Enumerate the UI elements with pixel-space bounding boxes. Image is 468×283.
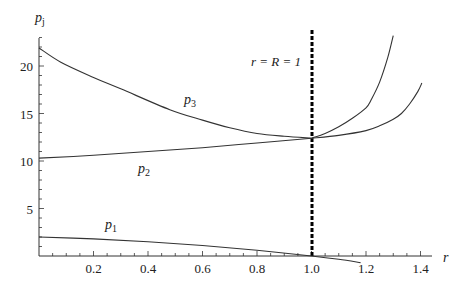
x-tick-label: 0.6 — [194, 261, 211, 276]
x-tick-label: 1.2 — [358, 261, 374, 276]
x-tick-label: 0.8 — [249, 261, 265, 276]
y-tick-label: 5 — [27, 202, 34, 217]
y-tick-label: 10 — [20, 154, 33, 169]
curve-1 — [39, 138, 312, 158]
annotation-r-equals-R: r = R = 1 — [251, 54, 301, 69]
curve-label-p1: p1 — [104, 217, 117, 234]
curve-label-p2: p2 — [137, 161, 150, 178]
curve-2 — [312, 36, 394, 139]
curves — [39, 36, 422, 263]
x-tick-label: 1.0 — [303, 261, 319, 276]
chart-plot: 0.20.40.60.81.01.21.4 5101520 pj r r = R… — [0, 0, 468, 283]
y-ticks: 5101520 — [20, 38, 44, 247]
y-tick-label: 15 — [20, 107, 33, 122]
curve-label-p3: p3 — [183, 92, 196, 109]
x-tick-label: 1.4 — [412, 261, 429, 276]
axes: 0.20.40.60.81.01.21.4 5101520 — [20, 38, 432, 277]
x-axis-label: r — [443, 250, 449, 265]
y-axis-label: pj — [34, 10, 45, 27]
curve-3 — [312, 83, 422, 138]
x-tick-label: 0.2 — [85, 261, 101, 276]
x-ticks: 0.20.40.60.81.01.21.4 — [53, 251, 430, 276]
y-tick-label: 20 — [20, 59, 33, 74]
x-tick-label: 0.4 — [140, 261, 157, 276]
